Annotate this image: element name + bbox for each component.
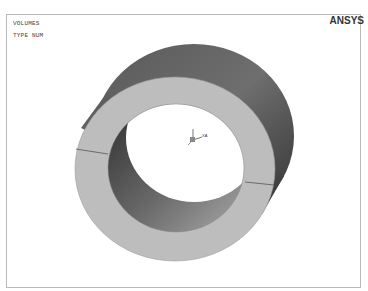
- triad-axis-label: XA: [202, 133, 208, 138]
- ring-volume-render[interactable]: XA: [0, 0, 368, 291]
